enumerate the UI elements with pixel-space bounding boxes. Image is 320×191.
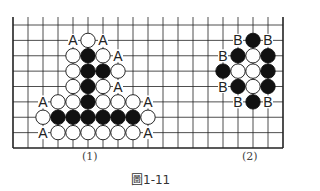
black-stone-icon (246, 33, 260, 47)
white-stone-icon (246, 64, 260, 78)
white-stone-icon (126, 95, 140, 109)
point-mark-b: B (233, 94, 242, 110)
black-stone-icon (246, 95, 260, 109)
subfigure-label-2: (2) (242, 150, 258, 163)
black-stone-icon (81, 49, 95, 63)
black-stone-icon (111, 110, 125, 124)
white-stone-icon (96, 79, 110, 93)
white-stone-icon (81, 33, 95, 47)
white-stone-icon (36, 110, 50, 124)
black-stone-icon (81, 110, 95, 124)
black-stone-icon (81, 64, 95, 78)
point-mark-b: B (233, 32, 242, 48)
point-mark-a: A (113, 79, 123, 95)
white-stone-icon (96, 125, 110, 139)
white-stone-icon (66, 95, 80, 109)
black-stone-icon (261, 49, 275, 63)
white-stone-icon (246, 49, 260, 63)
point-mark-a: A (113, 48, 123, 64)
diagram-2-stones: BBBBBB (216, 32, 275, 110)
figure-caption: 圖1-11 (131, 170, 170, 187)
black-stone-icon (51, 110, 65, 124)
black-stone-icon (81, 95, 95, 109)
black-stone-icon (261, 79, 275, 93)
subfigure-label-1: (1) (82, 150, 98, 163)
point-mark-a: A (38, 125, 48, 141)
black-stone-icon (81, 79, 95, 93)
white-stone-icon (111, 64, 125, 78)
black-stone-icon (126, 110, 140, 124)
white-stone-icon (51, 95, 65, 109)
black-stone-icon (231, 49, 245, 63)
black-stone-icon (96, 64, 110, 78)
white-stone-icon (96, 95, 110, 109)
white-stone-icon (66, 49, 80, 63)
point-mark-a: A (143, 94, 153, 110)
point-mark-a: A (98, 32, 108, 48)
white-stone-icon (96, 49, 110, 63)
white-stone-icon (81, 125, 95, 139)
white-stone-icon (126, 125, 140, 139)
white-stone-icon (141, 110, 155, 124)
black-stone-icon (261, 64, 275, 78)
black-stone-icon (231, 79, 245, 93)
white-stone-icon (231, 64, 245, 78)
point-mark-b: B (263, 32, 272, 48)
white-stone-icon (66, 64, 80, 78)
white-stone-icon (66, 125, 80, 139)
point-mark-a: A (143, 125, 153, 141)
point-mark-b: B (263, 94, 272, 110)
point-mark-a: A (38, 94, 48, 110)
black-stone-icon (216, 64, 230, 78)
white-stone-icon (51, 125, 65, 139)
white-stone-icon (246, 79, 260, 93)
white-stone-icon (111, 125, 125, 139)
point-mark-b: B (218, 48, 227, 64)
point-mark-b: B (218, 79, 227, 95)
black-stone-icon (96, 110, 110, 124)
white-stone-icon (66, 79, 80, 93)
point-mark-a: A (68, 32, 78, 48)
white-stone-icon (111, 95, 125, 109)
black-stone-icon (66, 110, 80, 124)
